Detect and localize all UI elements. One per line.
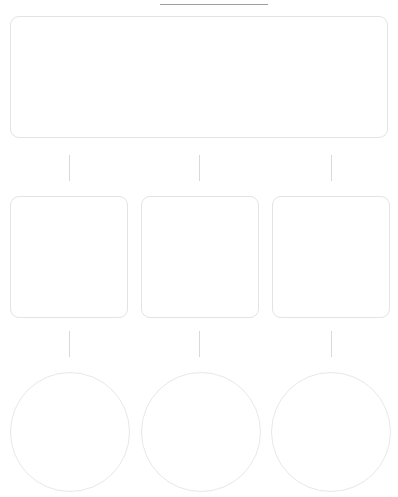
header-strip — [0, 0, 398, 9]
leaf-node-2-label — [142, 373, 260, 491]
connector-branch-2-to-leaf-2 — [199, 331, 200, 357]
connector-branch-1-to-leaf-1 — [69, 331, 70, 357]
leaf-node-1[interactable] — [10, 372, 130, 492]
root-node-label — [11, 17, 387, 137]
root-node[interactable] — [10, 16, 388, 138]
branch-node-2-label — [142, 197, 258, 317]
branch-node-1[interactable] — [10, 196, 128, 318]
leaf-node-1-label — [11, 373, 129, 491]
branch-node-2[interactable] — [141, 196, 259, 318]
connector-root-to-branch-1 — [69, 155, 70, 181]
connector-root-to-branch-2 — [199, 155, 200, 181]
leaf-node-3[interactable] — [271, 372, 391, 492]
header-divider-rule — [160, 4, 268, 5]
leaf-node-2[interactable] — [141, 372, 261, 492]
connector-root-to-branch-3 — [331, 155, 332, 181]
branch-node-1-label — [11, 197, 127, 317]
diagram-canvas — [0, 0, 398, 497]
branch-node-3-label — [273, 197, 389, 317]
connector-branch-3-to-leaf-3 — [331, 331, 332, 357]
leaf-node-3-label — [272, 373, 390, 491]
branch-node-3[interactable] — [272, 196, 390, 318]
